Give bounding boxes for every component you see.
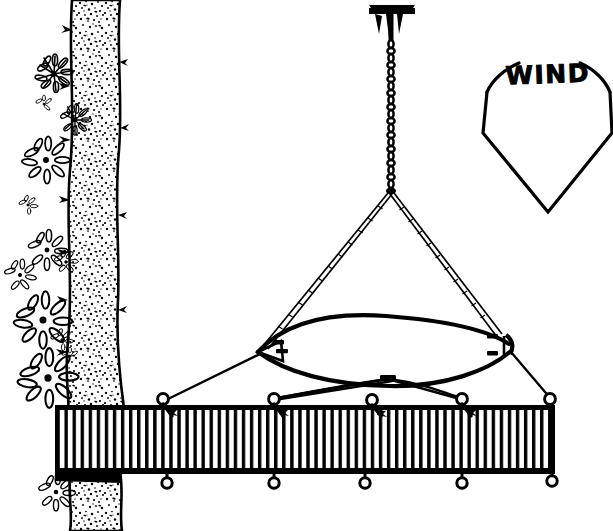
wind-label: WIND (505, 59, 591, 91)
ring (457, 478, 467, 488)
ring (269, 478, 279, 488)
ring (360, 478, 370, 488)
ring (162, 478, 172, 488)
illustration-canvas: WIND (0, 0, 613, 531)
ring (547, 476, 557, 486)
eye-bolt (545, 394, 556, 405)
deck-platform (55, 405, 555, 474)
